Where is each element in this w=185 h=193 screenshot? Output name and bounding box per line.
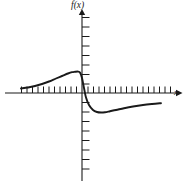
y-axis-ticks-lower	[82, 103, 90, 170]
y-axis-ticks-upper	[82, 18, 90, 85]
plot-canvas	[0, 0, 185, 193]
x-axis-label: x	[174, 88, 178, 97]
y-axis-label: f(x)	[71, 1, 84, 11]
function-curve	[21, 72, 161, 113]
function-graph-figure: f(x) x	[0, 0, 185, 193]
x-axis-ticks-right	[88, 87, 171, 94]
